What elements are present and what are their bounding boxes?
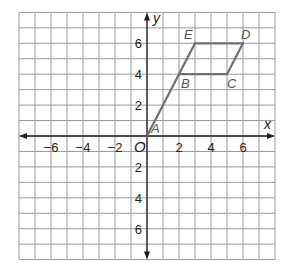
x-tick-label: −2 — [108, 140, 123, 155]
x-tick-label: 6 — [239, 140, 246, 155]
x-axis-arrow-right-icon — [267, 133, 275, 139]
y-axis-arrow-up-icon — [144, 12, 150, 20]
point-label-E: E — [184, 27, 193, 42]
point-label-B: B — [181, 76, 190, 91]
x-tick-label: −6 — [44, 140, 59, 155]
x-tick-label: 2 — [175, 140, 182, 155]
y-tick-label: 2 — [135, 160, 142, 175]
y-axis-arrow-down-icon — [144, 252, 150, 260]
y-tick-label: 4 — [135, 191, 142, 206]
x-axis-label: x — [263, 116, 272, 132]
y-tick-label: 6 — [135, 222, 142, 237]
origin-label: O — [134, 138, 146, 155]
point-label-D: D — [241, 27, 250, 42]
coordinate-plane: −6−4−2246642246 ABCDE x y O — [0, 0, 289, 274]
x-axis-arrow-left-icon — [19, 133, 27, 139]
y-axis-label: y — [152, 10, 161, 26]
point-label-A: A — [150, 121, 160, 136]
y-tick-label: 6 — [135, 36, 142, 51]
x-tick-label: −4 — [76, 140, 91, 155]
point-label-C: C — [227, 76, 237, 91]
x-tick-label: 4 — [207, 140, 214, 155]
y-tick-label: 2 — [135, 98, 142, 113]
y-tick-label: 4 — [135, 67, 142, 82]
